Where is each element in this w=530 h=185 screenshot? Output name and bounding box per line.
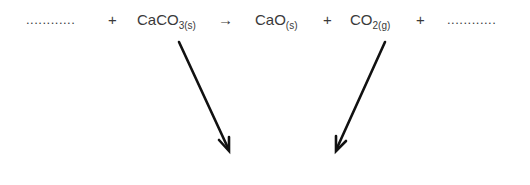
arrow-shaft xyxy=(337,42,385,148)
arrows-layer xyxy=(0,0,530,185)
arrow-from-co2 xyxy=(336,42,385,151)
arrow-from-caco3 xyxy=(179,42,229,151)
arrow-shaft xyxy=(179,42,228,148)
